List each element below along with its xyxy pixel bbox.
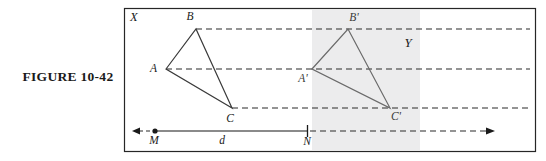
axis-label-m: M <box>148 134 160 146</box>
vertex-label-B-prime: B' <box>349 11 359 23</box>
axis-label-n: N <box>302 135 312 147</box>
vertex-label-C: C <box>226 112 234 124</box>
vertex-label-C-prime: C' <box>391 110 402 122</box>
vertex-label-A-prime: A' <box>297 72 308 84</box>
axis-right-arrowhead <box>486 128 495 135</box>
vertex-label-A: A <box>149 62 158 74</box>
axis-label-d: d <box>219 134 225 146</box>
axis-left-arrowhead <box>132 128 140 135</box>
geometry-diagram: A B C A' B' C' X Y M d N <box>0 0 546 161</box>
point-m-marker <box>152 128 157 133</box>
frame-label-x: X <box>129 10 139 24</box>
vertex-label-B: B <box>186 10 193 22</box>
figure-page: FIGURE 10-42 A B C A' B' C' <box>0 0 546 161</box>
region-y-shading <box>312 10 420 150</box>
